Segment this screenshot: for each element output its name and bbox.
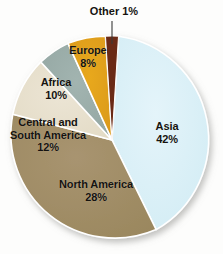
pie-label-north-america-value: 28% — [48, 191, 144, 204]
pie-label-asia-name: Asia — [140, 120, 194, 133]
pie-label-europe: Europe 8% — [58, 44, 118, 69]
pie-label-central-south-america-value: 12% — [2, 141, 94, 154]
pie-label-europe-name: Europe — [58, 44, 118, 57]
pie-label-central-south-america-line2: South America — [2, 129, 94, 142]
pie-label-asia: Asia 42% — [140, 120, 194, 145]
pie-label-north-america-name: North America — [48, 178, 144, 191]
pie-label-other: Other 1% — [62, 5, 166, 18]
pie-label-central-south-america-line1: Central and — [2, 116, 94, 129]
pie-label-africa-name: Africa — [26, 76, 86, 89]
pie-chart: Other 1% Asia 42% North America 28% Cent… — [0, 0, 223, 254]
pie-label-central-south-america: Central and South America 12% — [2, 116, 94, 154]
pie-label-asia-value: 42% — [140, 133, 194, 146]
pie-label-north-america: North America 28% — [48, 178, 144, 203]
pie-label-africa: Africa 10% — [26, 76, 86, 101]
pie-label-africa-value: 10% — [26, 89, 86, 102]
pie-label-europe-value: 8% — [58, 57, 118, 70]
pie-label-other-text: Other 1% — [90, 5, 138, 17]
